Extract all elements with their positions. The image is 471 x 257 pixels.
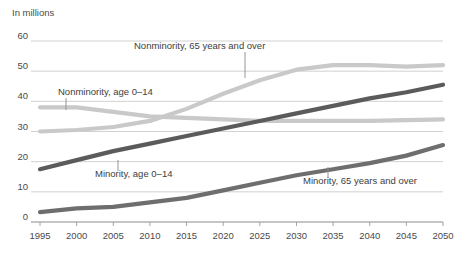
x-tick-label: 2015 (176, 230, 197, 241)
x-tick-label: 2050 (432, 230, 453, 241)
population-projection-line-chart: In millions 0102030405060 19952000200520… (0, 0, 471, 257)
x-tick-label: 2005 (103, 230, 124, 241)
x-tick-label: 2040 (359, 230, 380, 241)
x-tick-label: 2025 (249, 230, 270, 241)
x-tick-label: 1995 (29, 230, 50, 241)
x-tick-label: 2045 (396, 230, 417, 241)
x-tick-label: 2000 (66, 230, 87, 241)
x-tick-label: 2020 (213, 230, 234, 241)
y-tick-label: 40 (17, 90, 28, 101)
y-axis-unit-label: In millions (12, 7, 54, 18)
y-tick-label: 60 (17, 30, 28, 41)
y-tick-label: 20 (17, 151, 28, 162)
series-annotation-label: Nonminority, 65 years and over (134, 40, 265, 51)
y-tick-label: 50 (17, 60, 28, 71)
x-tick-label: 2030 (286, 230, 307, 241)
chart-container: In millions 0102030405060 19952000200520… (0, 0, 471, 257)
y-tick-label: 0 (23, 211, 28, 222)
series-annotation-label: Minority, age 0–14 (95, 168, 172, 179)
y-tick-label: 30 (17, 121, 28, 132)
x-tick-label: 2035 (323, 230, 344, 241)
series-annotation-label: Nonminority, age 0–14 (58, 86, 153, 97)
series-annotation-label: Minority, 65 years and over (303, 175, 417, 186)
y-tick-label: 10 (17, 181, 28, 192)
x-tick-label: 2010 (139, 230, 160, 241)
